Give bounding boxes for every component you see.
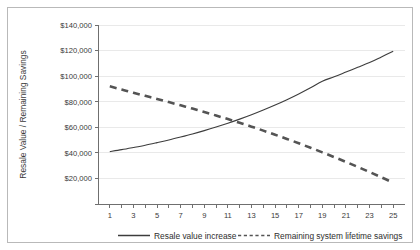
y-tick-label: $80,000 xyxy=(65,98,92,107)
y-tick-label: $20,000 xyxy=(65,174,92,183)
x-tick-label: 9 xyxy=(202,211,206,220)
x-tick-label: 5 xyxy=(155,211,159,220)
x-tick-label: 3 xyxy=(131,211,135,220)
y-tick-label: $40,000 xyxy=(65,149,92,158)
chart-card: $20,000$40,000$60,000$80,000$100,000$120… xyxy=(0,0,420,250)
x-tick-label: 25 xyxy=(389,211,397,220)
legend-label-2: Remaining system lifetime savings xyxy=(274,231,402,241)
series-lines xyxy=(110,51,393,182)
chart-legend: Resale value increaseRemaining system li… xyxy=(118,231,402,241)
x-tick-label: 1 xyxy=(108,211,112,220)
x-tick-label: 15 xyxy=(271,211,279,220)
y-tick-label: $60,000 xyxy=(65,123,92,132)
x-tick-label: 7 xyxy=(179,211,183,220)
gridlines xyxy=(98,25,405,178)
y-tick-label: $120,000 xyxy=(60,46,92,55)
y-axis: $20,000$40,000$60,000$80,000$100,000$120… xyxy=(60,21,98,204)
x-tick-label: 21 xyxy=(342,211,350,220)
x-tick-label: 19 xyxy=(318,211,326,220)
x-axis: 135791113151719212325 xyxy=(98,204,405,220)
series-line-dashed xyxy=(110,86,393,182)
line-chart: $20,000$40,000$60,000$80,000$100,000$120… xyxy=(0,0,420,250)
y-axis-title: Resale Value / Remaining Savings xyxy=(18,50,28,178)
y-tick-label: $140,000 xyxy=(60,21,92,30)
y-axis-title-label: Resale Value / Remaining Savings xyxy=(18,50,28,178)
x-tick-label: 11 xyxy=(224,211,232,220)
x-tick-label: 17 xyxy=(295,211,303,220)
x-tick-label: 13 xyxy=(247,211,255,220)
x-tick-label: 23 xyxy=(365,211,373,220)
legend-label-1: Resale value increase xyxy=(154,231,237,241)
y-tick-label: $100,000 xyxy=(60,72,92,81)
